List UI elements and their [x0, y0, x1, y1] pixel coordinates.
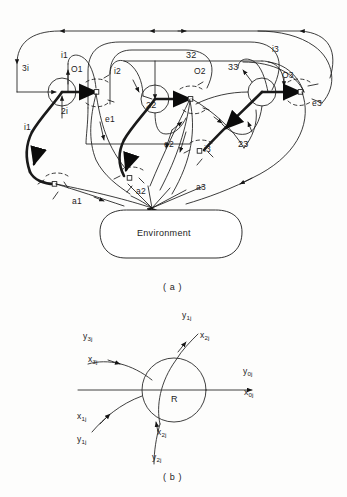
label-y2j-sub: 2j: [156, 456, 161, 463]
label-y1j-sub: 1j: [186, 314, 191, 321]
edge-x1j: [92, 396, 142, 432]
label-x0j-sub: 0j: [248, 391, 253, 398]
label-y2j: y2j: [152, 452, 161, 462]
label-x3j-sub: 3j: [92, 358, 97, 365]
label-x2j-top: x2j: [200, 330, 209, 340]
panel-b-diagram: [0, 0, 347, 497]
label-x1j: x1j: [77, 411, 86, 421]
label-x3j: x3j: [88, 354, 97, 364]
label-x1j-sub: 1j: [81, 415, 86, 422]
label-y3j: y3j: [83, 331, 92, 341]
figure-container: 3i i1 O1 2i i1 e1 a1 i2 32 O2 22 e2 a2 i…: [0, 0, 347, 497]
edge-y1j: [159, 334, 198, 424]
panel-b-caption: ( b ): [163, 472, 182, 482]
label-y1j-lower: y1j: [77, 434, 86, 444]
label-x0j: x0j: [244, 387, 253, 397]
label-y0j: y0j: [243, 366, 252, 376]
label-y1j-lower-sub: 1j: [81, 438, 86, 445]
label-r: R: [171, 394, 178, 404]
label-x2j-bottom: x2j: [157, 427, 166, 437]
label-y0j-sub: 0j: [247, 370, 252, 377]
label-y3j-sub: 3j: [87, 335, 92, 342]
label-x2j-top-sub: 2j: [204, 334, 209, 341]
label-y1j: y1j: [182, 310, 191, 320]
label-x2j-bottom-sub: 2j: [161, 431, 166, 438]
edge-x3j: [88, 362, 152, 380]
